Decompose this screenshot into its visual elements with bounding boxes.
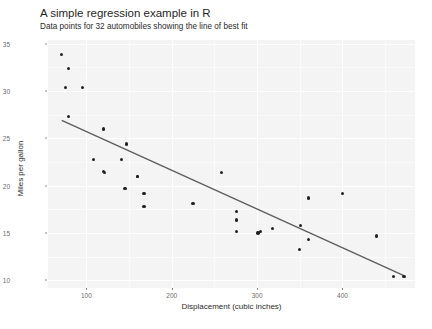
x-tick-mark: [172, 288, 173, 290]
y-axis-title: Miles per gallon: [16, 79, 25, 259]
data-point: [92, 158, 95, 161]
x-tick-mark: [257, 288, 258, 290]
x-tick-label: 200: [166, 292, 177, 299]
data-point: [235, 218, 238, 221]
x-tick-mark: [86, 288, 87, 290]
y-tick-label: 20: [3, 182, 10, 189]
y-tick-mark: [45, 43, 47, 44]
chart-subtitle: Data points for 32 automobiles showing t…: [40, 21, 420, 32]
regression-chart: A simple regression example in R Data po…: [0, 0, 432, 329]
regression-line: [48, 40, 415, 288]
y-tick-label: 25: [3, 135, 10, 142]
plot-panel: [48, 40, 415, 288]
data-point: [67, 67, 70, 70]
y-tick-mark: [45, 280, 47, 281]
y-tick-mark: [45, 138, 47, 139]
y-tick-label: 10: [3, 277, 10, 284]
data-point: [235, 230, 238, 233]
data-point: [120, 158, 123, 161]
data-point: [256, 231, 259, 234]
y-tick-label: 35: [3, 40, 10, 47]
x-tick-label: 300: [252, 292, 263, 299]
data-point: [375, 234, 378, 237]
y-tick-mark: [45, 185, 47, 186]
x-tick-label: 100: [81, 292, 92, 299]
data-point: [142, 192, 145, 195]
y-tick-mark: [45, 91, 47, 92]
x-tick-mark: [342, 288, 343, 290]
data-point: [123, 187, 126, 190]
data-point: [81, 86, 84, 89]
y-tick-label: 15: [3, 230, 10, 237]
data-point: [307, 196, 310, 199]
chart-title: A simple regression example in R: [40, 6, 420, 20]
x-axis-title: Displacement (cubic inches): [48, 302, 415, 311]
y-tick-mark: [45, 233, 47, 234]
data-point: [125, 142, 128, 145]
y-tick-label: 30: [3, 88, 10, 95]
data-point: [402, 275, 405, 278]
x-tick-label: 400: [337, 292, 348, 299]
title-block: A simple regression example in R Data po…: [40, 6, 420, 32]
